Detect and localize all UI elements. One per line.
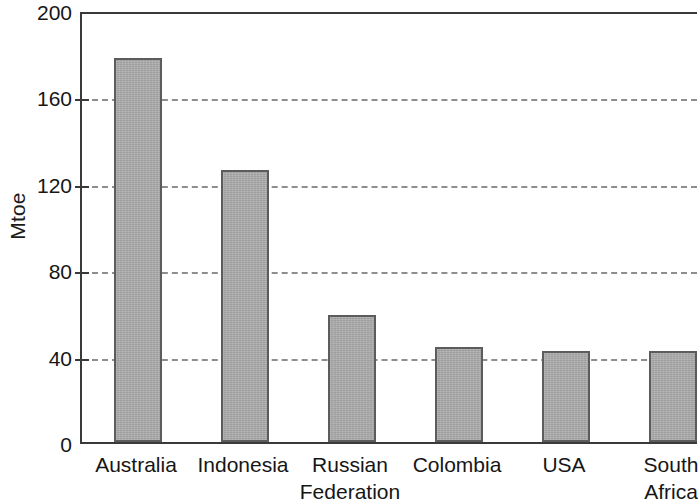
y-axis-tick [75,272,89,274]
x-tick-label: Russian Federation [300,452,400,504]
y-axis-tick [75,359,89,361]
y-axis-tick [75,186,89,188]
plot-area [80,12,697,444]
y-tick-label: 40 [8,347,72,368]
x-tick-label: Indonesia [197,452,288,479]
y-tick-label: 120 [8,174,72,195]
y-tick-label: 200 [8,2,72,23]
bar [542,351,590,442]
bar [649,351,697,442]
x-tick-label: Colombia [413,452,502,479]
gridline [82,99,697,101]
y-axis-tick-labels: 04080120160200 [0,0,72,504]
x-tick-label: Australia [95,452,177,479]
y-tick-label: 80 [8,261,72,282]
bar [328,315,376,442]
gridline [82,186,697,188]
x-tick-label: South Africa [644,452,698,504]
bar [221,170,269,442]
gridline [82,272,697,274]
y-axis-tick [75,99,89,101]
y-tick-label: 160 [8,88,72,109]
bar [114,58,162,442]
gridline [82,359,697,361]
x-axis-tick-labels: AustraliaIndonesiaRussian FederationColo… [0,444,697,504]
x-tick-label: USA [542,452,585,479]
bar [435,347,483,442]
